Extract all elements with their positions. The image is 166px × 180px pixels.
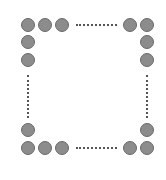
ellipsis-top [76,24,117,26]
circle-right-2 [140,35,154,49]
circle-right-3 [140,53,154,67]
circle-left-2 [21,35,35,49]
circle-bottom-5 [140,141,154,155]
ellipsis-bottom [76,147,117,149]
circle-left-4 [21,123,35,137]
circle-top-2 [38,18,52,32]
circle-perimeter-diagram [0,0,166,180]
circle-top-1 [21,18,35,32]
circle-right-4 [140,123,154,137]
ellipsis-left [27,75,29,118]
circle-top-3 [55,18,69,32]
circle-bottom-2 [38,141,52,155]
ellipsis-right [146,75,148,118]
circle-top-4 [123,18,137,32]
circle-bottom-4 [123,141,137,155]
circle-left-3 [21,53,35,67]
circle-bottom-3 [55,141,69,155]
circle-bottom-1 [21,141,35,155]
circle-top-5 [140,18,154,32]
